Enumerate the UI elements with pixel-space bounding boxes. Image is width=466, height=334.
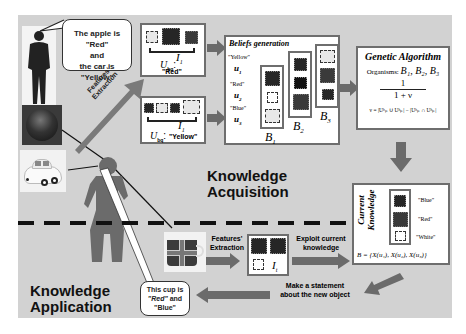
- exploit-knowledge-label: Exploit current knowledge: [290, 234, 352, 252]
- features-extraction-arrow-top: [70, 75, 150, 155]
- speech-bubble-bottom: This cup is "Red" and "Blue": [140, 281, 190, 316]
- dark-square-icon: [294, 58, 307, 71]
- dotted-square-icon: [395, 231, 406, 241]
- belief-var-label: u3: [234, 114, 242, 126]
- dark-square-icon: [294, 77, 307, 89]
- test-instance-box: It: [247, 234, 289, 276]
- dark-square-icon: [270, 238, 286, 254]
- exploit-line-1: Exploit current: [290, 234, 352, 243]
- union-jack-mug-image: [164, 232, 206, 272]
- arrow-right-icon: [206, 253, 242, 269]
- features-extraction-label-bottom: Features' Extraction: [207, 234, 247, 252]
- ga-fraction-numerator: 1: [358, 78, 448, 88]
- belief-group-label: B2: [293, 119, 304, 135]
- ga-organisms: Organisms: B₁, B₂, B₃: [358, 65, 448, 76]
- exploit-line-2: knowledge: [290, 243, 352, 252]
- belief-var-label: u1: [234, 63, 242, 75]
- beliefs-title: Beliefs generation: [229, 39, 289, 48]
- dark-square-icon: [185, 31, 198, 44]
- ga-fraction-denominator: 1 + ν: [358, 90, 448, 100]
- dark-square-icon: [393, 212, 408, 227]
- brace-icon: [149, 48, 195, 53]
- make-statement-label: Make a statement about the new object: [270, 281, 360, 299]
- dark-square-icon: [322, 89, 334, 100]
- dark-square-icon: [394, 195, 406, 207]
- dark-square-icon: [170, 103, 180, 113]
- current-knowledge-title: Current Knowledge: [356, 185, 376, 235]
- bottom-bubble-line-2: "Red" and: [141, 294, 189, 303]
- dotted-square-icon: [156, 103, 168, 113]
- bottom-bubble-line-3: "Blue": [141, 303, 189, 312]
- dotted-square-icon: [320, 50, 335, 63]
- kapp-line-1: Knowledge: [30, 283, 112, 299]
- ck-item-blue: "Blue": [418, 197, 434, 203]
- ck-formula: B = {X(u₁), X(u₂), X(u₃)}: [357, 251, 427, 259]
- knowledge-belief-group: [389, 189, 411, 245]
- genetic-algorithm-box: Genetic Algorithm Organisms: B₁, B₂, B₃ …: [356, 46, 450, 130]
- belief-group-b2: [288, 51, 312, 118]
- dark-square-icon: [162, 28, 180, 45]
- u-bq-value-label: Ubq: "Yellow": [150, 130, 197, 143]
- brace-icon: [147, 117, 197, 122]
- dotted-square-icon: [146, 31, 158, 43]
- statement-line-1: Make a statement: [270, 281, 360, 290]
- dotted-square-icon: [253, 259, 264, 270]
- ka-line-2: Acquisition: [207, 184, 289, 200]
- arrow-left-icon: [196, 287, 270, 303]
- instance-value: "Red": [162, 68, 182, 75]
- knowledge-application-label: Knowledge Application: [30, 283, 112, 315]
- ga-title: Genetic Algorithm: [358, 51, 448, 62]
- instance-box-red: I1 Ubq: "Red": [140, 23, 206, 77]
- app-features-line-1: Features': [207, 234, 247, 243]
- dark-square-icon: [265, 71, 280, 86]
- ck-item-white: "White": [416, 234, 436, 240]
- belief-group-b1: [260, 65, 284, 129]
- belief-color-label: "Yellow": [228, 54, 250, 60]
- current-knowledge-box: Current Knowledge "Blue" "Red" "White" B…: [352, 183, 450, 265]
- dotted-square-icon: [265, 109, 280, 123]
- arrow-down-left-icon: [364, 273, 404, 297]
- belief-var-label: u2: [234, 90, 242, 102]
- dark-square-icon: [320, 68, 335, 83]
- instance-index-label: I1: [176, 51, 183, 65]
- ck-title-line-1: Current: [356, 185, 366, 235]
- dotted-square-icon: [183, 100, 200, 114]
- belief-color-label: "Red": [230, 81, 245, 87]
- belief-group-b3: [315, 44, 339, 108]
- knowledge-acquisition-label: Knowledge Acquisition: [207, 168, 289, 200]
- ck-title-line-2: Knowledge: [366, 185, 376, 235]
- dark-square-icon: [293, 94, 309, 110]
- ka-line-1: Knowledge: [207, 168, 289, 184]
- ga-nu-formula: ν = |Uᵇₚ ∪ Uᵇₚ| − |Uᵇₚ ∩ Uᵇₚ|: [358, 107, 448, 113]
- dark-square-icon: [251, 238, 267, 254]
- arrow-right-icon: [292, 253, 352, 269]
- ck-item-red: "Red": [418, 216, 433, 222]
- dotted-square-icon: [267, 92, 278, 103]
- dark-square-icon: [144, 103, 154, 113]
- instance-box-yellow: I1 Ubq: "Yellow": [140, 96, 206, 144]
- belief-color-label: "Blue": [230, 105, 246, 111]
- arrow-down-icon: [390, 142, 412, 172]
- belief-group-label: B1: [265, 130, 276, 146]
- bottom-bubble-line-1: This cup is: [141, 285, 189, 294]
- kapp-line-2: Application: [30, 299, 112, 315]
- beliefs-generation-box: Beliefs generation "Yellow" u1 "Red" u2 …: [224, 35, 340, 145]
- belief-group-label: B3: [320, 109, 331, 125]
- app-features-line-2: Extraction: [207, 243, 247, 252]
- test-instance-label: It: [272, 259, 277, 273]
- statement-line-2: about the new object: [270, 290, 360, 299]
